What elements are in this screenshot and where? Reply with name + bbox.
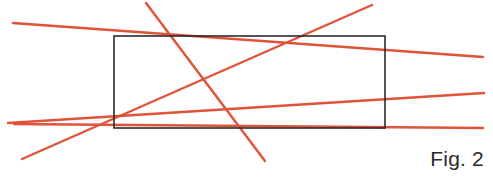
figure-caption-label: Fig. 2: [430, 148, 484, 169]
figure-drawing-canvas: [0, 0, 493, 187]
figure-container: Fig. 2: [0, 0, 493, 187]
